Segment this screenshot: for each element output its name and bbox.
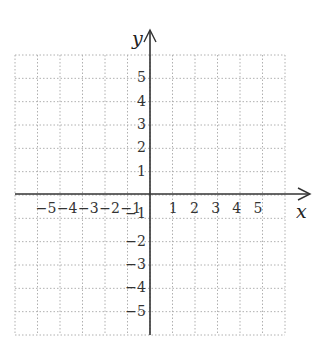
y-tick-label: −5 [125, 303, 146, 319]
x-tick-labels: −5−4−3−2−112345 [36, 200, 263, 216]
x-tick-label: −5 [36, 200, 57, 216]
x-tick-label: 4 [232, 200, 241, 216]
x-tick-label: 2 [190, 200, 199, 216]
y-tick-label: 3 [137, 116, 146, 132]
y-tick-label: 4 [137, 93, 146, 109]
y-tick-label: −1 [125, 205, 146, 221]
x-axis-label: x [296, 200, 307, 222]
y-tick-label: −3 [125, 256, 146, 272]
axes [15, 30, 310, 335]
x-tick-label: 5 [254, 200, 263, 216]
x-tick-label: 3 [211, 200, 220, 216]
x-tick-label: 1 [169, 200, 178, 216]
x-tick-label: −4 [57, 200, 78, 216]
y-axis-label: y [131, 27, 143, 49]
y-tick-label: 1 [137, 163, 146, 179]
coordinate-plane: y y x −5−4−3−2−112345 54321−1−2−3−4−5 [0, 0, 324, 342]
y-tick-label: 2 [137, 139, 146, 155]
y-tick-label: 5 [137, 69, 146, 85]
y-tick-label: −4 [125, 279, 146, 295]
x-tick-label: −3 [78, 200, 99, 216]
x-tick-label: −2 [99, 200, 120, 216]
y-tick-label: −2 [125, 233, 146, 249]
